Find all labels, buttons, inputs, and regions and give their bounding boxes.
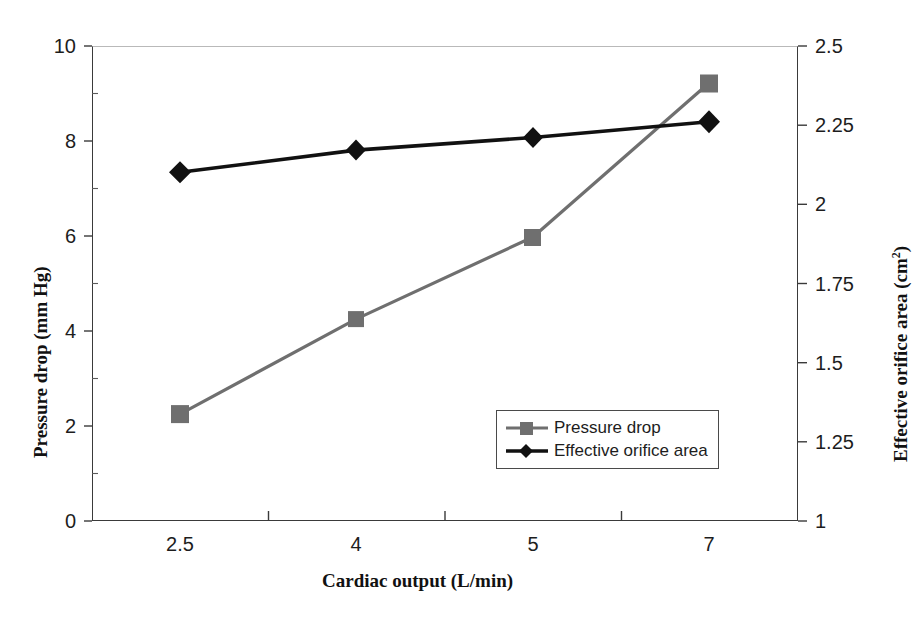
y-right-axis-title-main: Effective orifice area (cm bbox=[890, 258, 911, 462]
x-tick-4: 4 bbox=[350, 534, 361, 554]
x-tick-5: 5 bbox=[527, 534, 538, 554]
y-right-tick-1-25: 1.25 bbox=[815, 432, 854, 452]
y-right-tick-1-5: 1.5 bbox=[815, 353, 843, 373]
legend-item-effective-orifice-area[interactable]: Effective orifice area bbox=[505, 439, 708, 462]
y-left-tick-0: 0 bbox=[40, 511, 76, 531]
legend-label-pressure-drop: Pressure drop bbox=[554, 418, 661, 438]
y-right-tick-2-25: 2.25 bbox=[815, 115, 854, 135]
legend-item-pressure-drop[interactable]: Pressure drop bbox=[505, 416, 708, 439]
x-tick-7: 7 bbox=[703, 534, 714, 554]
y-right-axis-title-tail: ) bbox=[890, 246, 911, 252]
y-right-tick-1: 1 bbox=[815, 511, 826, 531]
x-axis-title: Cardiac output (L/min) bbox=[322, 570, 513, 592]
y-right-tick-2: 2 bbox=[815, 194, 826, 214]
y-left-tick-6: 6 bbox=[40, 226, 76, 246]
y-right-tick-2-5: 2.5 bbox=[815, 36, 843, 56]
legend-swatch-square-icon bbox=[505, 420, 549, 436]
y-left-tick-10: 10 bbox=[40, 36, 76, 56]
right-axis-ticks bbox=[798, 46, 807, 521]
y-right-axis-title: Effective orifice area (cm2) bbox=[890, 246, 912, 462]
legend-swatch-diamond-icon bbox=[505, 443, 549, 459]
left-axis-major-ticks bbox=[84, 46, 92, 521]
chart-figure: 10 8 6 4 2 0 2.5 2.25 2 1.75 1.5 1.25 1 … bbox=[0, 0, 922, 621]
chart-legend: Pressure drop Effective orifice area bbox=[496, 410, 719, 469]
y-left-tick-8: 8 bbox=[40, 131, 76, 151]
y-right-tick-1-75: 1.75 bbox=[815, 274, 854, 294]
x-tick-2-5: 2.5 bbox=[166, 534, 194, 554]
legend-label-effective-orifice-area: Effective orifice area bbox=[554, 441, 708, 461]
y-right-axis-title-exponent: 2 bbox=[889, 252, 903, 258]
y-left-axis-title: Pressure drop (mm Hg) bbox=[30, 266, 52, 458]
